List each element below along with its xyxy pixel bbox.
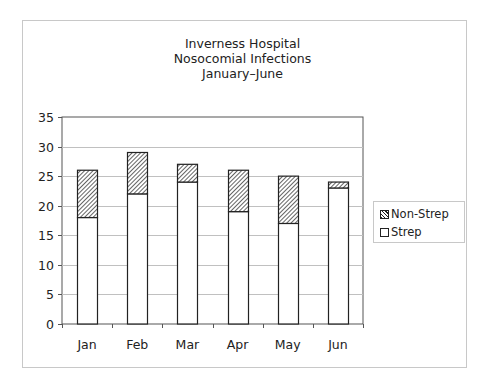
bar-non-strep-feb: [128, 152, 148, 193]
bar-non-strep-may: [279, 176, 299, 223]
plot-area: [62, 117, 363, 324]
y-tick-label: 30: [38, 140, 54, 155]
x-tick-label: Apr: [227, 337, 249, 352]
bar-non-strep-apr: [229, 170, 249, 211]
y-tick-label: 15: [38, 228, 54, 243]
hatched-swatch-icon: [380, 210, 389, 219]
bar-strep-may: [279, 223, 299, 324]
bars: [78, 152, 349, 324]
x-tick-label: Feb: [126, 337, 148, 352]
y-tick-label: 0: [46, 317, 54, 332]
x-tick-label: May: [275, 337, 301, 352]
bar-non-strep-jan: [78, 170, 98, 217]
legend-item-strep: Strep: [380, 225, 422, 239]
bar-non-strep-mar: [178, 164, 198, 182]
bar-strep-jun: [329, 188, 349, 324]
x-tick-label: Mar: [176, 337, 200, 352]
y-tick-label: 35: [38, 110, 54, 125]
legend-label-non-strep: Non-Strep: [391, 207, 449, 221]
legend: Non-Strep Strep: [373, 201, 465, 243]
white-swatch-icon: [380, 228, 389, 237]
legend-label-strep: Strep: [391, 225, 422, 239]
bar-strep-mar: [178, 182, 198, 324]
gridlines: [62, 117, 363, 324]
y-tick-label: 25: [38, 169, 54, 184]
y-axis: 05101520253035: [38, 110, 62, 332]
stacked-bar-chart: 05101520253035 JanFebMarAprMayJun: [0, 0, 485, 388]
legend-item-non-strep: Non-Strep: [380, 207, 449, 221]
x-tick-label: Jun: [327, 337, 348, 352]
y-tick-label: 5: [46, 287, 54, 302]
bar-strep-feb: [128, 194, 148, 324]
bar-non-strep-jun: [329, 182, 349, 188]
x-tick-label: Jan: [76, 337, 96, 352]
y-tick-label: 10: [38, 258, 54, 273]
bar-strep-jan: [78, 218, 98, 324]
y-tick-label: 20: [38, 199, 54, 214]
x-axis: JanFebMarAprMayJun: [63, 324, 364, 352]
bar-strep-apr: [229, 212, 249, 324]
